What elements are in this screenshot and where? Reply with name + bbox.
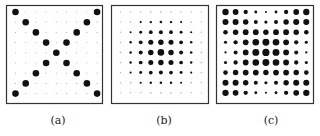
panel-b-dot-r9-c6 xyxy=(170,92,172,94)
panel-b-dot-r3-c8 xyxy=(190,31,192,33)
panel-b-dot-r5-c7 xyxy=(179,50,183,54)
panel-a-dot-r6-c9 xyxy=(97,62,98,63)
panel-c-dot-r7-c6 xyxy=(273,70,279,76)
panel-a-dot-r7-c6 xyxy=(66,73,67,74)
panel-a-dot-r4-c2 xyxy=(25,42,26,43)
panel-a-dot-r8-c3 xyxy=(35,83,36,84)
panel-c-dot-r9-c9 xyxy=(303,90,309,96)
panel-c-dot-r9-c2 xyxy=(233,90,239,96)
panel-b-dot-r5-c4 xyxy=(148,50,153,55)
panel-c-dot-r5-c7 xyxy=(283,50,289,56)
panel-a-dot-r2-c7 xyxy=(76,22,77,23)
panel-c-dot-r3-c3 xyxy=(243,29,249,35)
panel-a-dot-r3-c2 xyxy=(25,32,26,33)
panel-c-dot-r8-c8 xyxy=(293,80,299,86)
panel-c-dot-r6-c1 xyxy=(224,61,227,64)
panel-b-dot-r7-c4 xyxy=(149,71,153,75)
panel-a-dot-r6-c4 xyxy=(43,60,50,67)
panel-b-dot-r3-c3 xyxy=(139,31,142,34)
panel-b-dot-r7-c7 xyxy=(180,71,183,74)
panel-b-dot-r9-c3 xyxy=(140,92,142,94)
panel-a-dot-r8-c4 xyxy=(46,83,47,84)
panel-c-dot-r1-c5 xyxy=(265,11,267,13)
panel-b-dot-r7-c1 xyxy=(120,72,122,74)
panel-b-dot-r4-c2 xyxy=(129,41,131,43)
panel-b-dot-r6-c5 xyxy=(158,60,163,65)
panel-b-dot-r1-c4 xyxy=(150,11,152,13)
panel-a-dot-r6-c1 xyxy=(15,62,16,63)
panel-b-dot-r9-c8 xyxy=(190,92,191,93)
panel-b-dot-r2-c9 xyxy=(201,21,202,22)
panel-a-dot-r5-c2 xyxy=(25,52,26,53)
figure: (a) (b) (c) xyxy=(0,0,320,136)
panel-a-dot-r6-c8 xyxy=(86,62,87,63)
panel-b-dot-r4-c9 xyxy=(200,41,202,43)
panel-b-dot-r2-c3 xyxy=(140,21,142,23)
panel-c-dot-r8-c4 xyxy=(254,81,258,85)
panel-b-dot-r9-c9 xyxy=(201,92,202,93)
panel-c-dot-r3-c6 xyxy=(273,29,279,35)
panel-a-dot-r8-c6 xyxy=(66,83,67,84)
panel-b-dot-r5-c3 xyxy=(139,50,143,54)
panel-b: (b) xyxy=(112,6,209,128)
panel-b-dot-r3-c2 xyxy=(130,31,132,33)
panel-c-dot-r1-c2 xyxy=(233,9,239,15)
panel-b-dot-r5-c2 xyxy=(129,51,132,54)
panel-c-dot-r2-c2 xyxy=(233,19,239,25)
panel-c-dot-r1-c3 xyxy=(244,10,248,14)
panel-b-dot-r7-c6 xyxy=(169,71,173,75)
panel-c-dot-r2-c9 xyxy=(303,19,309,25)
panel-b-dot-r1-c9 xyxy=(201,11,202,12)
panel-a-dot-r7-c5 xyxy=(56,73,57,74)
panel-a-dot-r4-c6 xyxy=(63,39,70,46)
panel-c-dot-r9-c7 xyxy=(284,91,288,95)
panel-b-dot-r8-c5 xyxy=(160,81,163,84)
panel-c-dot-r6-c8 xyxy=(294,60,298,64)
panel-b-dot-r5-c6 xyxy=(168,50,173,55)
panel-b-dot-r4-c7 xyxy=(179,40,183,44)
panel-a-dot-r8-c1 xyxy=(15,83,16,84)
panel-b-dot-r8-c9 xyxy=(201,82,202,83)
panel-c-label: (c) xyxy=(264,114,279,127)
panel-a-dot-r9-c1 xyxy=(12,90,19,97)
panel-a-dot-r2-c6 xyxy=(66,22,67,23)
panel-c-dot-r6-c4 xyxy=(252,59,259,66)
panel-c-dot-r6-c9 xyxy=(305,61,308,64)
panel-a-dot-r5-c1 xyxy=(15,52,16,53)
panel-c-dot-r3-c9 xyxy=(304,30,309,35)
panel-c-dot-r5-c8 xyxy=(294,50,298,54)
panel-b-dot-r7-c9 xyxy=(201,72,203,74)
panel-c-dot-r9-c5 xyxy=(265,92,267,94)
panel-c-dot-r4-c6 xyxy=(273,39,280,46)
panel-c-dot-r9-c6 xyxy=(275,91,278,94)
panel-c-dot-r8-c6 xyxy=(274,81,278,85)
panel-c-dot-r7-c3 xyxy=(243,70,249,76)
panel-b-dot-r2-c7 xyxy=(180,21,182,23)
panel-c-dot-r7-c8 xyxy=(293,70,298,75)
panel-a-dot-r3-c8 xyxy=(86,32,87,33)
panel-b-dot-r4-c3 xyxy=(139,40,143,44)
panel-c-dot-r2-c7 xyxy=(283,19,288,24)
panel-a-dot-r7-c3 xyxy=(33,70,40,77)
panel-b-dot-r7-c3 xyxy=(139,71,142,74)
panel-c-dot-r7-c7 xyxy=(283,70,289,76)
panel-b-dot-r6-c6 xyxy=(168,60,173,65)
panel-c-dot-r3-c2 xyxy=(233,29,238,34)
panel-a-dot-r3-c9 xyxy=(97,32,98,33)
panel-b-dot-r8-c8 xyxy=(190,82,192,84)
panel-b-dot-r3-c1 xyxy=(120,31,122,33)
panel-a-dot-r3-c4 xyxy=(46,32,47,33)
panel-c-dot-r2-c4 xyxy=(254,20,258,24)
panel-b-dot-r1-c5 xyxy=(160,11,162,13)
panel-b-dot-r6-c2 xyxy=(129,61,131,63)
panel-a-dot-r8-c8 xyxy=(84,80,91,87)
panel-b-dot-r2-c8 xyxy=(190,21,192,23)
panel-c-dot-r3-c8 xyxy=(293,29,298,34)
panel-c: (c) xyxy=(217,6,314,128)
panel-b-dot-r7-c5 xyxy=(159,71,163,75)
panel-c-dot-r6-c3 xyxy=(243,60,249,66)
panel-a-dot-r6-c5 xyxy=(56,62,57,63)
panel-a-dot-r3-c3 xyxy=(33,29,40,36)
panel-a-dot-r7-c1 xyxy=(15,73,16,74)
panel-a-dot-r2-c8 xyxy=(84,19,91,26)
